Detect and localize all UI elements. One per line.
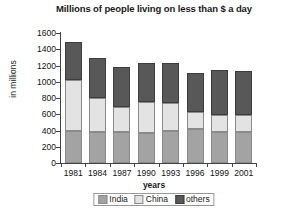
bar-segment-india-1993 bbox=[162, 131, 179, 164]
bar-segment-india-1990 bbox=[138, 133, 155, 163]
x-axis-tick-labels: 19811984198719901993199619992001 bbox=[61, 168, 256, 180]
bar-group-1996 bbox=[187, 33, 204, 163]
x-tick-2001 bbox=[232, 163, 233, 167]
bar-segment-others-1999 bbox=[211, 70, 228, 115]
y-axis-label-600: 600 bbox=[4, 110, 56, 119]
y-axis-label-1400: 1400 bbox=[4, 45, 56, 54]
bar-segment-others-1987 bbox=[113, 67, 130, 107]
x-tick-1984 bbox=[85, 163, 86, 167]
bar-group-1981 bbox=[65, 33, 82, 163]
bar-segment-china-1996 bbox=[187, 112, 204, 129]
bar-group-1993 bbox=[162, 33, 179, 163]
bar-segment-china-1984 bbox=[89, 98, 106, 132]
bar-segment-china-1993 bbox=[162, 103, 179, 130]
x-tick-1996 bbox=[183, 163, 184, 167]
legend-label-china: China bbox=[146, 195, 168, 204]
bar-segment-china-1990 bbox=[138, 102, 155, 132]
bar-segment-others-1984 bbox=[89, 58, 106, 97]
y-axis-label-1200: 1200 bbox=[4, 62, 56, 71]
x-tick-1981 bbox=[61, 163, 62, 167]
chart-legend: IndiaChinaothers bbox=[93, 193, 214, 206]
bar-segment-china-1981 bbox=[65, 80, 82, 131]
bar-segment-india-2001 bbox=[235, 132, 252, 163]
x-tick-1990 bbox=[134, 163, 135, 167]
bar-segment-others-1993 bbox=[162, 63, 179, 103]
x-tick-end bbox=[256, 163, 257, 167]
legend-label-others: others bbox=[186, 195, 210, 204]
bar-segment-others-1996 bbox=[187, 73, 204, 112]
bar-segment-india-1999 bbox=[211, 132, 228, 163]
bar-segment-india-1984 bbox=[89, 132, 106, 163]
bar-segment-india-1987 bbox=[113, 132, 130, 163]
x-axis-title: years bbox=[0, 180, 308, 190]
x-tick-1993 bbox=[159, 163, 160, 167]
y-axis-label-800: 800 bbox=[4, 94, 56, 103]
bar-group-1990 bbox=[138, 33, 155, 163]
bar-group-1987 bbox=[113, 33, 130, 163]
x-tick-1987 bbox=[110, 163, 111, 167]
bar-group-2001 bbox=[235, 33, 252, 163]
y-axis-label-1600: 1600 bbox=[4, 29, 56, 38]
legend-item-india[interactable]: India bbox=[98, 195, 127, 204]
legend-swatch-india-icon bbox=[98, 195, 107, 204]
bar-segment-others-2001 bbox=[235, 71, 252, 115]
bar-segment-others-1990 bbox=[138, 63, 155, 103]
bar-segment-india-1981 bbox=[65, 131, 82, 163]
legend-label-india: India bbox=[109, 195, 127, 204]
x-axis-label-2001: 2001 bbox=[229, 168, 259, 178]
bar-segment-india-1996 bbox=[187, 129, 204, 163]
chart-container: Millions of people living on less than $… bbox=[0, 0, 308, 217]
y-axis-label-1000: 1000 bbox=[4, 78, 56, 87]
y-axis-label-0: 0 bbox=[4, 159, 56, 168]
bar-segment-china-1999 bbox=[211, 115, 228, 132]
bar-segment-china-1987 bbox=[113, 107, 130, 132]
y-axis-label-400: 400 bbox=[4, 127, 56, 136]
bar-series-area bbox=[61, 33, 256, 163]
bar-segment-china-2001 bbox=[235, 115, 252, 132]
y-axis-label-200: 200 bbox=[4, 143, 56, 152]
legend-item-others[interactable]: others bbox=[175, 195, 210, 204]
bar-group-1999 bbox=[211, 33, 228, 163]
legend-item-china[interactable]: China bbox=[135, 195, 168, 204]
legend-swatch-others-icon bbox=[175, 195, 184, 204]
x-tick-1999 bbox=[207, 163, 208, 167]
bar-group-1984 bbox=[89, 33, 106, 163]
legend-swatch-china-icon bbox=[135, 195, 144, 204]
bar-segment-others-1981 bbox=[65, 42, 82, 81]
